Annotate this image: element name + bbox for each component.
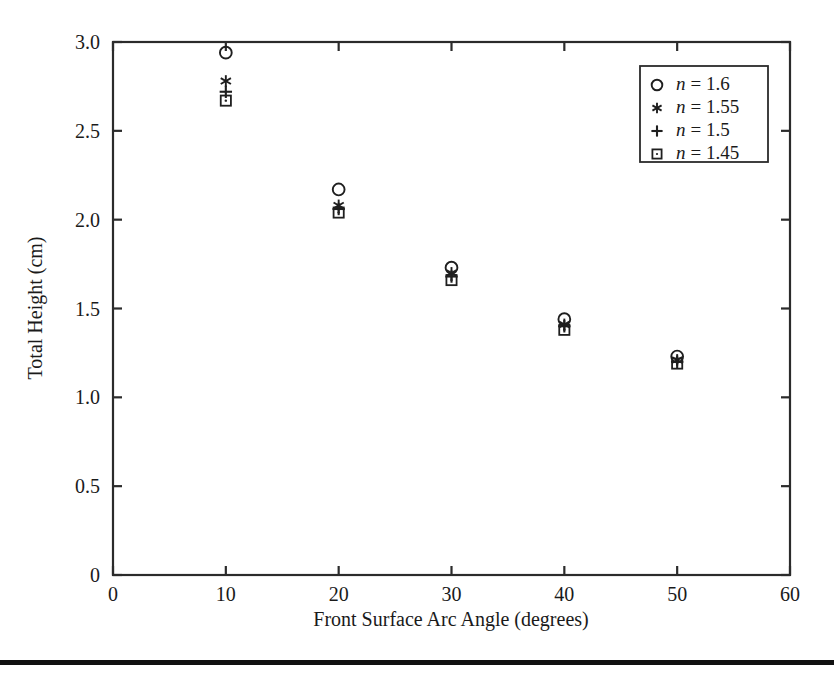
legend-label: n= 1.55 [676, 96, 739, 117]
x-axis-tick-labels: 0102030405060 [108, 583, 800, 605]
x-tick-label: 50 [667, 583, 687, 605]
y-tick-label: 0 [90, 564, 100, 586]
bottom-rule-divider [0, 660, 834, 665]
y-tick-label: 2.0 [75, 209, 100, 231]
y-tick-label: 2.5 [75, 120, 100, 142]
legend-label: n= 1.5 [676, 119, 730, 140]
data-point [221, 75, 231, 87]
y-tick-label: 1.5 [75, 298, 100, 320]
data-point [333, 184, 345, 196]
x-tick-label: 40 [554, 583, 574, 605]
x-tick-label: 0 [108, 583, 118, 605]
figure-container: 0102030405060 00.51.01.52.02.53.0 Front … [0, 0, 834, 677]
x-tick-label: 10 [216, 583, 236, 605]
series-plus [220, 86, 684, 368]
x-tick-label: 60 [780, 583, 800, 605]
x-axis-title: Front Surface Arc Angle (degrees) [313, 608, 588, 631]
y-tick-label: 0.5 [75, 475, 100, 497]
legend-label: n= 1.6 [676, 73, 730, 94]
x-tick-label: 30 [442, 583, 462, 605]
y-axis-tick-labels: 00.51.01.52.02.53.0 [75, 31, 100, 586]
scatter-plot: 0102030405060 00.51.01.52.02.53.0 Front … [0, 0, 834, 677]
series-asterisk [221, 75, 683, 366]
legend-label: n= 1.45 [676, 142, 739, 163]
series-circle [220, 47, 683, 363]
y-tick-label: 3.0 [75, 31, 100, 53]
series-square [221, 96, 683, 369]
data-point-group [220, 47, 684, 369]
legend: n= 1.6n= 1.55n= 1.5n= 1.45 [640, 66, 768, 163]
x-tick-label: 20 [329, 583, 349, 605]
y-axis-title: Total Height (cm) [24, 237, 47, 380]
y-tick-label: 1.0 [75, 386, 100, 408]
